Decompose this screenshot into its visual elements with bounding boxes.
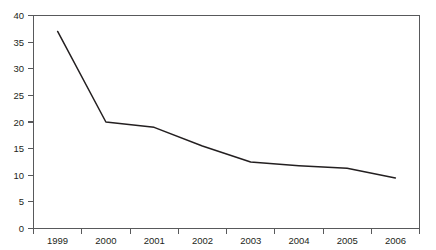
plot-frame: [34, 16, 420, 229]
x-tick-label: 1999: [47, 235, 68, 246]
axis-frame: [34, 16, 420, 229]
chart-canvas: 40 35 30 25 20 15 10 5 0 1999 2000 2001: [0, 0, 436, 250]
y-tick-label: 0: [19, 223, 24, 234]
line-chart: 40 35 30 25 20 15 10 5 0 1999 2000 2001: [0, 0, 436, 250]
y-tick-label: 30: [13, 63, 24, 74]
x-tick-label: 2000: [95, 235, 116, 246]
y-tick-label: 35: [13, 37, 24, 48]
y-tick-label: 15: [13, 143, 24, 154]
y-axis-labels: 40 35 30 25 20 15 10 5 0: [13, 10, 24, 234]
x-tick-label: 2005: [337, 235, 358, 246]
y-tick-label: 20: [13, 117, 24, 128]
y-tick-label: 5: [19, 196, 24, 207]
x-tick-label: 2002: [192, 235, 213, 246]
x-tick-label: 2004: [288, 235, 309, 246]
x-tick-label: 2003: [240, 235, 261, 246]
data-series-line: [58, 31, 396, 177]
y-tick-label: 25: [13, 90, 24, 101]
y-axis-ticks: [28, 16, 34, 229]
x-axis-labels: 1999 2000 2001 2002 2003 2004 2005 2006: [47, 235, 406, 246]
x-axis-ticks: [34, 229, 420, 235]
y-tick-label: 10: [13, 170, 24, 181]
x-tick-label: 2006: [385, 235, 406, 246]
x-tick-label: 2001: [144, 235, 165, 246]
y-tick-label: 40: [13, 10, 24, 21]
